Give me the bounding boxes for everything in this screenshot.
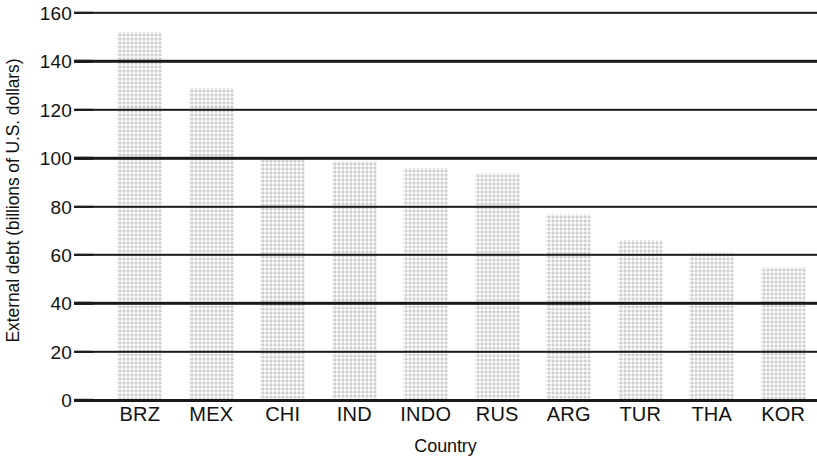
y-axis-tick-label: 160: [24, 4, 72, 23]
x-axis-title: Country: [74, 436, 817, 457]
x-axis-tick-label: BRZ: [119, 404, 160, 424]
y-axis-tick-label: 100: [24, 149, 72, 168]
bar: [189, 88, 234, 400]
y-axis-tick-label: 20: [24, 342, 72, 361]
bar: [403, 168, 448, 400]
x-axis-tick-label: RUS: [476, 404, 519, 424]
gridline: [74, 12, 817, 14]
x-axis-tick-label: TUR: [619, 404, 661, 424]
x-axis-tick-label: ARG: [547, 404, 591, 424]
x-axis-tick-label: THA: [691, 404, 732, 424]
gridline: [74, 60, 817, 62]
y-axis-tick-label: 120: [24, 100, 72, 119]
bar: [546, 214, 591, 400]
y-axis-tick-label: 60: [24, 245, 72, 264]
x-axis-tick-label: MEX: [189, 404, 233, 424]
gridline: [74, 157, 817, 159]
y-axis-title-text: External debt (billions of U.S. dollars): [4, 58, 25, 342]
y-axis-tick-label: 80: [24, 197, 72, 216]
bar: [689, 252, 734, 400]
gridline: [74, 109, 817, 111]
y-axis-tick-label: 0: [24, 391, 72, 410]
plot-area: [74, 0, 817, 400]
x-axis-tick-label: CHI: [265, 404, 300, 424]
bar: [260, 158, 305, 400]
y-axis-tick-label: 140: [24, 52, 72, 71]
x-axis-tick-labels: BRZMEXCHIINDINDORUSARGTURTHAKOR: [74, 402, 817, 436]
gridline: [74, 205, 817, 207]
gridline: [74, 350, 817, 352]
y-axis-tick-labels: 020406080100120140160: [24, 0, 72, 400]
x-axis-tick-label: INDO: [400, 404, 451, 424]
bar-chart-figure: External debt (billions of U.S. dollars)…: [0, 0, 817, 474]
bar: [761, 267, 806, 400]
x-axis-tick-label: IND: [337, 404, 372, 424]
bar: [618, 240, 663, 400]
bar: [117, 32, 162, 400]
gridline: [74, 302, 817, 304]
gridline: [74, 254, 817, 256]
bar: [332, 161, 377, 400]
x-axis-tick-label: KOR: [761, 404, 805, 424]
y-axis-tick-label: 40: [24, 294, 72, 313]
